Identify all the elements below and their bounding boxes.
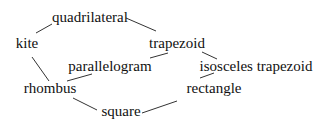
edge-kite-rhombus: [32, 57, 49, 81]
node-quadrilateral: quadrilateral: [52, 10, 128, 25]
node-rhombus: rhombus: [24, 81, 77, 96]
node-parallelogram: parallelogram: [68, 59, 151, 74]
edge-trapezoid-parallelogram: [150, 53, 168, 58]
edge-rhombus-square: [73, 98, 97, 110]
edge-isosceles-trapezoid-rectangle: [200, 73, 214, 78]
node-rectangle: rectangle: [187, 81, 242, 96]
node-square: square: [101, 104, 140, 119]
node-trapezoid: trapezoid: [149, 36, 205, 51]
edge-rectangle-square: [142, 101, 177, 113]
node-kite: kite: [16, 36, 39, 51]
edge-quadrilateral-trapezoid: [126, 18, 156, 31]
quadrilateral-hierarchy-diagram: quadrilateral kite trapezoid parallelogr…: [0, 0, 324, 128]
edge-kite-quadrilateral: [36, 24, 52, 33]
node-isosceles-trapezoid: isosceles trapezoid: [200, 59, 313, 74]
